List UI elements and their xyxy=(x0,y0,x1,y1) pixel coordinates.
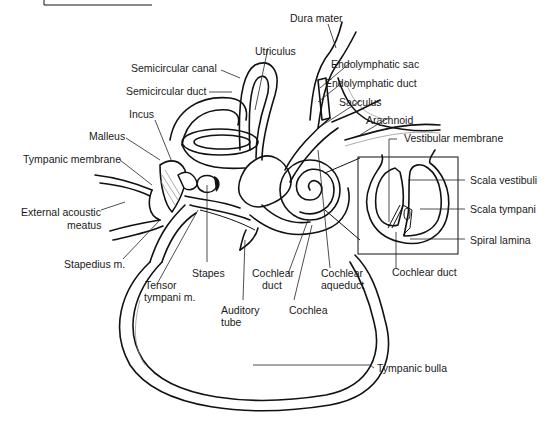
label-malleus: Malleus xyxy=(89,130,125,142)
label-tube: tube xyxy=(221,316,242,328)
label-tympanic-membrane: Tympanic membrane xyxy=(23,153,121,165)
label-scala-tympani: Scala tympani xyxy=(470,203,536,215)
label-cochlear-duct-inset: Cochlear duct xyxy=(392,266,457,278)
label-tensor: Tensor xyxy=(145,279,177,291)
semicircular-canals-shape xyxy=(170,63,277,168)
label-external-acoustic: External acoustic xyxy=(21,206,101,218)
label-cochlea: Cochlea xyxy=(289,304,328,316)
label-cochlear-duct-1: Cochlear xyxy=(252,267,295,279)
ear-anatomy-diagram: Dura mater Utriculus Semicircular canal … xyxy=(0,0,551,421)
label-stapes: Stapes xyxy=(192,267,225,279)
cochlear-cross-section xyxy=(367,150,449,243)
label-dura-mater: Dura mater xyxy=(290,12,343,24)
label-tympanic-bulla: Tympanic bulla xyxy=(377,362,447,374)
external-acoustic-meatus-shape xyxy=(95,175,163,240)
label-endolymphatic-duct: Endolymphatic duct xyxy=(325,77,417,89)
label-semicircular-duct: Semicircular duct xyxy=(126,85,207,97)
label-semicircular-canal: Semicircular canal xyxy=(131,62,217,74)
auditory-tube-shape xyxy=(240,228,258,250)
label-cochlear-duct-2: duct xyxy=(262,279,282,291)
label-cochlear-aqueduct-2: aqueduct xyxy=(321,279,364,291)
label-spiral-lamina: Spiral lamina xyxy=(470,234,531,246)
label-scala-vestibuli: Scala vestibuli xyxy=(470,174,537,186)
label-utriculus: Utriculus xyxy=(255,45,296,57)
label-incus: Incus xyxy=(129,108,154,120)
label-stapedius: Stapedius m. xyxy=(64,258,125,270)
label-meatus: meatus xyxy=(67,219,101,231)
label-sacculus: Sacculus xyxy=(339,96,382,108)
label-arachnoid: Arachnoid xyxy=(366,114,413,126)
header-rule xyxy=(44,0,152,5)
label-tympani-m: tympani m. xyxy=(144,291,195,303)
cochlea-shape xyxy=(250,160,349,234)
label-auditory: Auditory xyxy=(221,304,260,316)
label-vestibular-membrane: Vestibular membrane xyxy=(404,132,503,144)
label-endolymphatic-sac: Endolymphatic sac xyxy=(331,58,419,70)
labels: Dura mater Utriculus Semicircular canal … xyxy=(21,12,537,374)
label-cochlear-aqueduct-1: Cochlear xyxy=(321,267,364,279)
